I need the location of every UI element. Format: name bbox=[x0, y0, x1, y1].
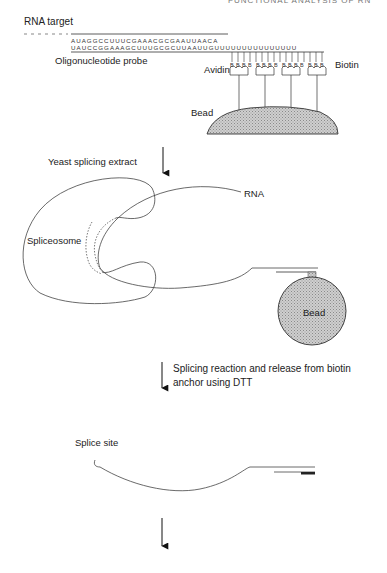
running-title: FUNCTIONAL ANALYSIS OF RN bbox=[228, 0, 371, 5]
rna-loop-inner-top bbox=[116, 188, 155, 219]
splice-site-label: Splice site bbox=[75, 437, 118, 448]
probe-sequence: UAUCCGGAAAGCUUUGCGCUUAAUUGUUUUUUUUUUUUUU… bbox=[71, 44, 297, 51]
svg-text:B: B bbox=[242, 62, 246, 68]
probe-label: Oligonucleotide probe bbox=[55, 55, 147, 66]
arrow2-label-line1: Splicing reaction and release from bioti… bbox=[173, 363, 351, 375]
spliceosome-label: Spliceosome bbox=[27, 235, 81, 246]
arrow1-label: Yeast splicing extract bbox=[48, 156, 137, 167]
biotin-linkers bbox=[232, 52, 322, 62]
svg-text:B: B bbox=[268, 62, 272, 68]
biotin-label: Biotin bbox=[335, 59, 359, 70]
bead-label-1: Bead bbox=[191, 107, 213, 118]
svg-text:B: B bbox=[256, 62, 260, 68]
svg-text:B: B bbox=[294, 62, 298, 68]
svg-text:B: B bbox=[320, 62, 324, 68]
splicing-purification-diagram: BBBB BBBB BBBB BBB bbox=[0, 0, 387, 573]
spliceosome-region bbox=[86, 218, 116, 274]
svg-text:B: B bbox=[262, 62, 266, 68]
biotin-glyphs: BBBB BBBB BBBB BBB bbox=[230, 62, 324, 68]
svg-text:B: B bbox=[314, 62, 318, 68]
svg-text:B: B bbox=[282, 62, 286, 68]
bead-label-2: Bead bbox=[303, 307, 325, 318]
arrow2-label-line2: anchor using DTT bbox=[173, 377, 252, 389]
released-linker bbox=[301, 472, 315, 475]
rna-label: RNA bbox=[244, 188, 264, 199]
avidin-label: Avidin bbox=[204, 64, 230, 75]
svg-text:B: B bbox=[248, 62, 252, 68]
target-sequence: AUAGGCCUUUCGAAACGCGAAUUAACA bbox=[71, 37, 218, 44]
svg-text:B: B bbox=[300, 62, 304, 68]
rna-target-label: RNA target bbox=[24, 16, 73, 28]
svg-text:B: B bbox=[236, 62, 240, 68]
svg-text:B: B bbox=[230, 62, 234, 68]
bead-dome bbox=[207, 107, 338, 134]
released-rna-strand bbox=[94, 460, 315, 491]
rna-main-strand bbox=[98, 187, 318, 289]
svg-text:B: B bbox=[288, 62, 292, 68]
step3-released-rna bbox=[94, 460, 315, 491]
svg-text:B: B bbox=[274, 62, 278, 68]
svg-text:B: B bbox=[308, 62, 312, 68]
